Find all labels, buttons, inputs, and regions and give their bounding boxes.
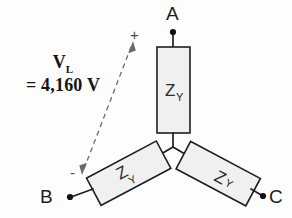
terminal-dot-a [170,29,176,35]
diagram-canvas: VL = 4,160 V Z Y Z Y Z Y [0,0,292,218]
impedance-subscript-a: Y [176,91,184,103]
terminal-label-b: B [40,186,53,207]
terminal-label-a: A [166,3,179,24]
terminal-dot-c [260,193,266,199]
lead-b-outer [71,189,93,197]
impedance-label-a: Z [165,81,175,100]
wye-circuit-svg: Z Y Z Y Z Y A B C + [0,0,292,218]
minus-sign-label: - [70,164,75,181]
plus-sign-label: + [130,26,139,43]
voltage-arrow-shaft [84,47,131,169]
impedance-group-b [87,141,171,205]
terminal-label-c: C [269,186,283,207]
voltage-arrowhead-bottom [79,163,87,175]
impedance-box-b [87,141,171,205]
terminal-dot-b [67,194,73,200]
